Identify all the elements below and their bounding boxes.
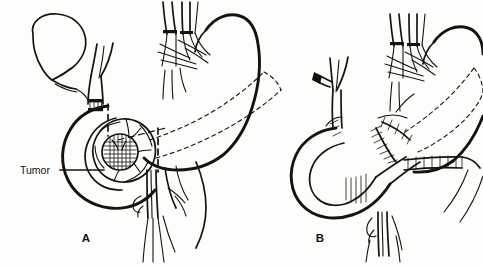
- figure-root: Tumor A: [0, 0, 483, 267]
- surgical-illustration: Tumor A: [0, 0, 483, 267]
- tumor-label: Tumor: [20, 164, 50, 176]
- panel-a-label: A: [82, 232, 91, 244]
- panel-b-label: B: [316, 232, 325, 244]
